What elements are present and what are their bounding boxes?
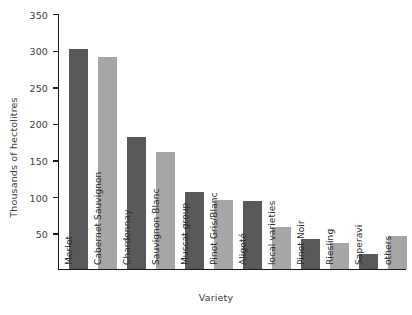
x-axis-title-text: Variety — [199, 292, 233, 303]
bar-category-label-text: Saperavi — [354, 225, 364, 265]
bar-category-label-text: Merlot — [64, 236, 74, 265]
bar-category-label-text: Pinot Noir — [296, 220, 306, 265]
plot-area: 50100150200250300350 MerlotCabernet Sauv… — [58, 14, 406, 270]
bar[interactable]: Chardonnay — [127, 137, 146, 269]
y-tick-label: 100 — [30, 192, 48, 203]
bar[interactable]: Sauvignon Blanc — [156, 152, 175, 269]
bar[interactable]: Cabernet Sauvignon — [98, 57, 117, 269]
bar-category-label-text: Muscat group — [180, 203, 190, 265]
y-tick-mark: 100 — [53, 197, 58, 198]
bar[interactable]: Pinot Noir — [301, 239, 320, 269]
y-tick-mark: 50 — [53, 233, 58, 234]
bar-category-label-text: Chardonnay — [122, 209, 132, 265]
bar-category-label-text: local varieties — [267, 201, 277, 265]
bar[interactable]: Muscat group — [185, 192, 204, 269]
y-tick-mark: 200 — [53, 124, 58, 125]
bar[interactable]: local varieties — [272, 227, 291, 269]
bar[interactable]: Aligoté — [243, 201, 262, 269]
bar-category-label-text: Sauvignon Blanc — [151, 188, 161, 265]
y-tick-label: 250 — [30, 82, 48, 93]
y-tick-label: 50 — [36, 229, 48, 240]
y-tick-label: 300 — [30, 46, 48, 57]
bar[interactable]: Riesling — [330, 243, 349, 269]
y-tick-mark: 350 — [53, 14, 58, 15]
y-tick-mark: 150 — [53, 160, 58, 161]
y-axis-line — [58, 14, 59, 270]
y-axis-title: Thousands of hectolitres — [0, 0, 26, 315]
bar-chart: Thousands of hectolitres Variety 5010015… — [0, 0, 412, 315]
bar-category-label-text: Cabernet Sauvignon — [93, 172, 103, 265]
bar-category-label-text: Pinot Gris/Blanc — [209, 192, 219, 265]
x-axis-title: Variety — [0, 292, 412, 303]
x-axis-line — [58, 269, 406, 270]
bar[interactable]: Merlot — [69, 49, 88, 269]
y-tick-label: 350 — [30, 9, 48, 20]
bar[interactable]: Saperavi — [359, 254, 378, 269]
bar[interactable]: Pinot Gris/Blanc — [214, 200, 233, 269]
bar[interactable]: others — [388, 236, 407, 269]
y-tick-mark: 300 — [53, 51, 58, 52]
y-axis-title-text: Thousands of hectolitres — [8, 97, 19, 217]
y-tick-mark: 250 — [53, 87, 58, 88]
bar-category-label-text: Aligoté — [238, 233, 248, 265]
bar-category-label-text: others — [383, 236, 393, 265]
bar-category-label-text: Riesling — [325, 229, 335, 265]
y-tick-label: 150 — [30, 155, 48, 166]
y-tick-label: 200 — [30, 119, 48, 130]
